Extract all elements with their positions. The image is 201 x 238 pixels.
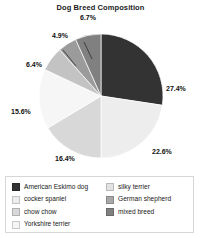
slice-label-mixed-breed: 6.7% bbox=[80, 14, 96, 21]
legend-label: silky terrier bbox=[118, 184, 150, 191]
slice-label-german-shepherd: 4.9% bbox=[52, 32, 68, 39]
legend-item-yorkshire-terrier[interactable]: Yorkshire terrier bbox=[12, 219, 88, 232]
chart-legend: American Eskimo dogcocker spanielchow ch… bbox=[5, 176, 194, 233]
pie-slice-american-eskimo-dog[interactable] bbox=[101, 34, 163, 105]
slice-label-silky-terrier: 6.4% bbox=[26, 61, 42, 68]
pie-slices bbox=[39, 34, 163, 158]
legend-label: cocker spaniel bbox=[24, 196, 66, 203]
legend-swatch-icon bbox=[106, 208, 114, 216]
slice-label-yorkshire-terrier: 15.6% bbox=[11, 108, 31, 115]
legend-label: German shepherd bbox=[118, 196, 171, 203]
legend-item-german-shepherd[interactable]: German shepherd bbox=[106, 194, 171, 207]
slice-label-cocker-spaniel: 22.6% bbox=[152, 148, 172, 155]
legend-column-left: American Eskimo dogcocker spanielchow ch… bbox=[12, 181, 88, 231]
legend-swatch-icon bbox=[106, 183, 114, 191]
legend-item-chow-chow[interactable]: chow chow bbox=[12, 206, 88, 219]
legend-column-right: silky terrierGerman shepherdmixed breed bbox=[106, 181, 171, 219]
legend-label: chow chow bbox=[24, 209, 57, 216]
legend-swatch-icon bbox=[106, 196, 114, 204]
legend-item-mixed-breed[interactable]: mixed breed bbox=[106, 206, 171, 219]
slice-label-chow-chow: 16.4% bbox=[55, 155, 75, 162]
chart-title: Dog Breed Composition bbox=[0, 3, 201, 12]
slice-label-american-eskimo-dog: 27.4% bbox=[166, 85, 186, 92]
legend-item-silky-terrier[interactable]: silky terrier bbox=[106, 181, 171, 194]
legend-label: Yorkshire terrier bbox=[24, 221, 70, 228]
legend-label: mixed breed bbox=[118, 209, 154, 216]
legend-swatch-icon bbox=[12, 208, 20, 216]
legend-label: American Eskimo dog bbox=[24, 184, 88, 191]
legend-item-cocker-spaniel[interactable]: cocker spaniel bbox=[12, 194, 88, 207]
legend-item-american-eskimo-dog[interactable]: American Eskimo dog bbox=[12, 181, 88, 194]
legend-swatch-icon bbox=[12, 196, 20, 204]
pie-chart-figure: Dog Breed Composition 27.4% 22.6% 16.4% … bbox=[0, 0, 201, 238]
legend-swatch-icon bbox=[12, 221, 20, 229]
legend-swatch-icon bbox=[12, 183, 20, 191]
